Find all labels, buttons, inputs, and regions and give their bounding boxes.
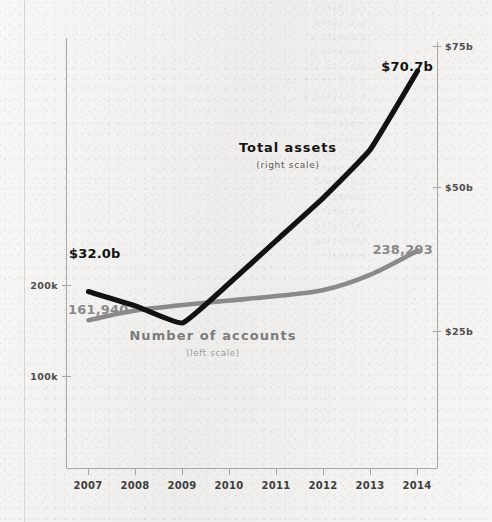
left-axis-ticks: 200k 100k <box>30 280 71 382</box>
series-label-total-assets: Total assets <box>239 140 337 155</box>
x-tick-label-2009: 2009 <box>167 480 196 491</box>
x-tick-label-2007: 2007 <box>73 480 102 491</box>
x-tick-label-2008: 2008 <box>120 480 149 491</box>
value-label-accounts-start: 161,940 <box>68 302 129 317</box>
value-label-total-assets-start: $32.0b <box>69 246 121 261</box>
right-tick-label-25b: $25b <box>445 326 473 337</box>
chart-svg: 200k 100k $75b $50b $25b 2007 2008 200 <box>0 0 492 522</box>
left-tick-label-100k: 100k <box>30 371 58 382</box>
x-tick-label-2014: 2014 <box>402 480 431 491</box>
right-tick-label-50b: $50b <box>445 182 473 193</box>
right-axis-ticks: $75b $50b $25b <box>433 41 473 337</box>
series-annotation-number-of-accounts: Number of accounts (left scale) <box>129 328 296 358</box>
series-sublabel-total-assets: (right scale) <box>256 160 319 170</box>
series-line-total-assets <box>89 71 418 323</box>
value-label-accounts-end: 238,293 <box>372 242 433 257</box>
x-tick-label-2010: 2010 <box>214 480 243 491</box>
dual-axis-line-chart: 200k 100k $75b $50b $25b 2007 2008 200 <box>0 0 492 522</box>
series-sublabel-number-of-accounts: (left scale) <box>186 348 239 358</box>
left-tick-label-200k: 200k <box>30 280 58 291</box>
x-tick-label-2013: 2013 <box>355 480 384 491</box>
series-label-number-of-accounts: Number of accounts <box>129 328 296 343</box>
right-tick-label-75b: $75b <box>445 41 473 52</box>
x-tick-label-2012: 2012 <box>308 480 337 491</box>
series-annotation-total-assets: Total assets (right scale) <box>239 140 337 170</box>
x-tick-label-2011: 2011 <box>261 480 290 491</box>
value-label-total-assets-end: $70.7b <box>381 59 433 74</box>
x-axis-ticks: 2007 2008 2009 2010 2011 2012 2013 2014 <box>73 468 431 491</box>
